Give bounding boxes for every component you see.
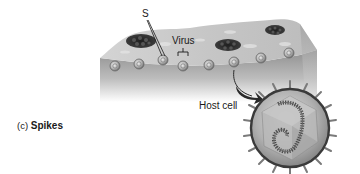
illustration: [0, 0, 360, 174]
virion: [284, 48, 294, 58]
virion: [178, 61, 188, 71]
virion: [256, 53, 266, 63]
virus-label: Virus: [172, 36, 195, 46]
host-cell-label: Host cell: [199, 101, 237, 111]
spikes-diagram: S Virus Host cell (c) Spikes: [0, 0, 360, 174]
virion-cluster-1: [126, 34, 156, 48]
virion: [204, 60, 214, 70]
virion: [158, 55, 168, 65]
virion: [110, 61, 120, 71]
panel-label: (c): [17, 120, 28, 131]
virion-cluster-2: [215, 39, 241, 51]
spike-label: S: [142, 9, 149, 19]
virion: [134, 59, 144, 69]
panel-caption: (c) Spikes: [17, 120, 63, 131]
virion: [229, 57, 239, 67]
virion-cluster-3: [265, 25, 285, 35]
panel-title: Spikes: [31, 120, 63, 131]
